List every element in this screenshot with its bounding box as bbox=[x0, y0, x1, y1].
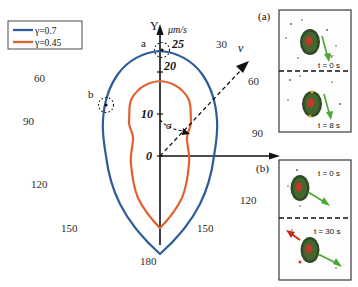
cell-nucleus-b2 bbox=[306, 245, 312, 254]
angle-label-right-30: 30 bbox=[216, 38, 228, 50]
cell-nucleus-a1 bbox=[306, 36, 313, 45]
panel-b-label: (b) bbox=[256, 162, 269, 175]
cell-nucleus-a2 bbox=[308, 98, 315, 107]
radial-tick-0: 0 bbox=[146, 149, 152, 163]
inset-b2-time: t = 30 s bbox=[314, 227, 340, 236]
radial-tick-10: 10 bbox=[141, 107, 153, 121]
y-axis-label: Y bbox=[150, 19, 159, 33]
angle-label-right-90: 90 bbox=[252, 127, 264, 139]
angle-label-left-120: 120 bbox=[31, 178, 48, 190]
velocity-vector-arrow bbox=[160, 61, 249, 156]
angle-label-bottom-180: 180 bbox=[140, 255, 157, 267]
inset-panel-b: t = 0 s t = 30 s bbox=[279, 160, 351, 280]
inset-a2-time: t = 8 s bbox=[318, 121, 340, 130]
angle-label-right-150: 150 bbox=[197, 222, 214, 234]
inset-panel-a: v t = 0 s t = 8 s bbox=[279, 10, 351, 132]
cell-nucleus-b1 bbox=[296, 183, 302, 192]
angle-label-left-150: 150 bbox=[61, 222, 78, 234]
inset-a1-time: t = 0 s bbox=[318, 61, 340, 70]
polar-plot-group: Y X μm/s 0 10 20 25 30 60 90 120 150 30 … bbox=[23, 19, 287, 267]
inset-b1-time: t = 0 s bbox=[318, 169, 340, 178]
angle-label-right-120: 120 bbox=[240, 194, 257, 206]
velocity-vector-label: v bbox=[238, 41, 244, 55]
x-axis bbox=[160, 152, 280, 159]
angle-label-left-90: 90 bbox=[23, 115, 35, 127]
sigma-angle-label: σ bbox=[166, 119, 172, 131]
point-a-label: a bbox=[141, 37, 146, 49]
angle-label-left-60: 60 bbox=[34, 72, 46, 84]
sigma-angle-arc bbox=[160, 120, 190, 135]
marked-point-a bbox=[155, 43, 170, 58]
legend-label-gamma-0-7: γ=0.7 bbox=[34, 26, 57, 36]
y-axis bbox=[156, 24, 163, 245]
radial-tick-25: 25 bbox=[171, 37, 184, 51]
radial-tick-20: 20 bbox=[163, 59, 176, 73]
polar-velocity-figure: Y X μm/s 0 10 20 25 30 60 90 120 150 30 … bbox=[0, 0, 358, 287]
angle-label-right-60: 60 bbox=[248, 75, 260, 87]
radial-unit-label: μm/s bbox=[167, 24, 187, 35]
panel-a-label: (a) bbox=[258, 10, 271, 23]
legend-label-gamma-0-45: γ=0.45 bbox=[34, 38, 61, 48]
legend-box: γ=0.7 γ=0.45 bbox=[8, 21, 82, 49]
point-b-label: b bbox=[88, 88, 94, 100]
